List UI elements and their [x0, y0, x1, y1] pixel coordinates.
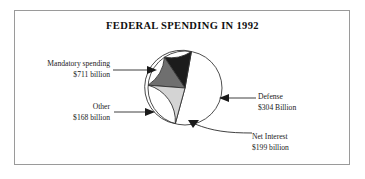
- callout-defense-label: Defense: [258, 92, 358, 103]
- arrow-head-defense: [219, 94, 229, 102]
- callout-mandatory-label: Mandatory spending: [18, 59, 110, 70]
- callout-mandatory-spending: Mandatory spending $711 billion: [18, 59, 110, 80]
- callout-defense: Defense $304 Billion: [258, 92, 358, 113]
- callout-other-value: $168 billion: [44, 113, 110, 124]
- callout-net-interest-label: Net Interest: [252, 132, 356, 143]
- callout-mandatory-value: $711 billion: [18, 70, 110, 81]
- callout-other: Other $168 billion: [44, 102, 110, 123]
- figure-canvas: FEDERAL SPENDING IN 1992: [0, 0, 365, 179]
- callout-other-label: Other: [44, 102, 110, 113]
- callout-net-interest: Net Interest $199 billion: [252, 132, 356, 153]
- arrow-head-net-interest: [188, 120, 199, 128]
- pie-slices: [145, 50, 222, 125]
- arrow-line-net-interest: [195, 124, 252, 133]
- callout-net-interest-value: $199 billion: [252, 143, 356, 154]
- callout-defense-value: $304 Billion: [258, 103, 358, 114]
